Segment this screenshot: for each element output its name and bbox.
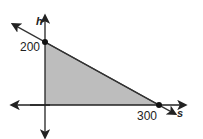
x-tick-label: 300 [137,109,157,123]
point-x-intercept [156,102,162,108]
chart: h s 200 300 [0,0,203,139]
point-y-intercept [42,39,48,45]
y-axis-label: h [36,15,43,27]
y-tick-label: 200 [20,40,40,54]
x-axis-label: s [177,107,183,119]
